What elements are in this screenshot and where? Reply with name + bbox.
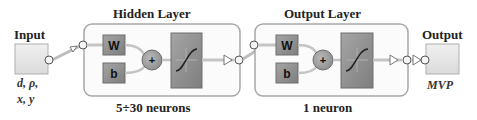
input-vars-line1: d, ρ, [17, 76, 38, 91]
hidden-layer-title: Hidden Layer [113, 6, 191, 22]
input-node-icon [45, 56, 53, 64]
output-var: MVP [427, 78, 453, 93]
output-title: Output [422, 27, 462, 43]
output-layer-output-node-icon [403, 56, 411, 64]
output-layer-caption: 1 neuron [303, 100, 352, 116]
hidden-output-node-icon [235, 56, 243, 64]
output-node-icon [421, 56, 429, 64]
output-layer-title: Output Layer [284, 6, 361, 22]
output-layer-input-node-icon [250, 41, 258, 49]
svg-text:b: b [283, 67, 290, 81]
output-layer-box [250, 24, 411, 96]
svg-text:b: b [110, 67, 117, 81]
input-box [15, 44, 48, 74]
svg-text:+: + [320, 54, 326, 66]
network-diagram: W b + W b + [0, 0, 477, 120]
output-box [426, 44, 459, 74]
svg-text:W: W [108, 39, 120, 53]
input-vars-line2: x, y [17, 92, 34, 107]
input-title: Input [14, 27, 45, 43]
hidden-layer-caption: 5÷30 neurons [116, 100, 190, 116]
svg-text:+: + [149, 54, 155, 66]
hidden-layer-box [79, 24, 243, 96]
svg-text:W: W [281, 39, 293, 53]
hidden-input-node-icon [79, 41, 87, 49]
arrow-icon [413, 55, 421, 65]
